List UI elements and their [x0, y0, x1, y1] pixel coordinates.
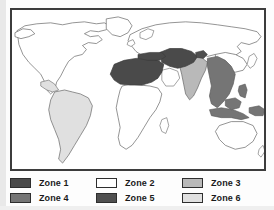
region-japan: [247, 53, 257, 68]
legend-label-zone3: Zone 3: [211, 178, 241, 188]
legend-swatch-zone2: [96, 178, 117, 188]
region-indonesia: [209, 108, 249, 120]
region-new-zealand: [258, 145, 265, 157]
legend-label-zone6: Zone 6: [211, 193, 241, 203]
legend-swatch-zone4: [10, 193, 31, 203]
figure-page: Zone 1 Zone 2 Zone 3 Zone 4 Zone 5: [0, 0, 274, 210]
region-sub-saharan-africa: [116, 84, 162, 149]
legend-row-2: Zone 4 Zone 5 Zone 6: [10, 190, 268, 205]
region-greenland: [106, 17, 132, 37]
legend-label-zone2: Zone 2: [125, 178, 155, 188]
region-philippines: [238, 84, 247, 98]
region-australia: [215, 122, 257, 150]
scan-edge-bottom: [0, 206, 274, 210]
world-map: [11, 9, 265, 170]
region-borneo: [225, 98, 241, 110]
legend-label-zone5: Zone 5: [125, 193, 155, 203]
region-south-america: [49, 90, 93, 163]
region-new-guinea: [249, 106, 265, 116]
legend-label-zone1: Zone 1: [39, 178, 69, 188]
region-mediterranean-strip: [138, 52, 166, 60]
region-arabian-peninsula: [162, 68, 180, 86]
legend-item-zone3[interactable]: Zone 3: [182, 175, 268, 190]
map-legend: Zone 1 Zone 2 Zone 3 Zone 4 Zone 5: [10, 175, 268, 205]
legend-swatch-zone6: [182, 193, 203, 203]
legend-swatch-zone3: [182, 178, 203, 188]
legend-item-zone4[interactable]: Zone 4: [10, 190, 96, 205]
legend-item-zone6[interactable]: Zone 6: [182, 190, 268, 205]
region-madagascar: [160, 118, 169, 134]
legend-row-1: Zone 1 Zone 2 Zone 3: [10, 175, 268, 190]
region-north-africa: [110, 58, 164, 85]
region-eurasia-north: [128, 22, 261, 58]
world-map-frame: [10, 8, 266, 171]
legend-item-zone2[interactable]: Zone 2: [96, 175, 182, 190]
legend-item-zone5[interactable]: Zone 5: [96, 190, 182, 205]
legend-swatch-zone5: [96, 193, 117, 203]
scan-edge-left: [0, 0, 6, 210]
legend-item-zone1[interactable]: Zone 1: [10, 175, 96, 190]
legend-swatch-zone1: [10, 178, 31, 188]
legend-label-zone4: Zone 4: [39, 193, 69, 203]
